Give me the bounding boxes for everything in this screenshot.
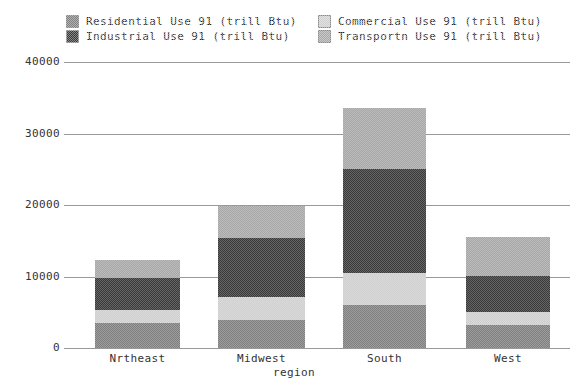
gridline — [64, 62, 570, 63]
bar-segment — [218, 320, 305, 348]
y-axis-tick-label: 10000 — [6, 270, 60, 283]
bar-segment — [95, 310, 180, 323]
x-axis-label: West — [466, 352, 550, 365]
y-axis-tick-label: 0 — [6, 341, 60, 354]
bar-west — [466, 237, 550, 348]
bar-south — [343, 108, 426, 348]
x-axis-label: Midwest — [218, 352, 305, 365]
bar-segment — [95, 278, 180, 310]
bar-segment — [466, 276, 550, 312]
bar-segment — [218, 238, 305, 297]
bar-nrtheast — [95, 260, 180, 348]
bar-segment — [343, 273, 426, 305]
bar-segment — [95, 260, 180, 278]
gridline — [64, 134, 570, 135]
y-axis-tick: 20000 — [0, 198, 60, 212]
bar-segment — [466, 237, 550, 276]
x-axis-label: Nrtheast — [95, 352, 180, 365]
plot-area: 010000200003000040000NrtheastMidwestSout… — [0, 0, 588, 378]
bar-midwest — [218, 206, 305, 348]
y-axis-tick: 40000 — [0, 55, 60, 69]
bar-segment — [218, 297, 305, 320]
x-axis-title: region — [0, 366, 588, 378]
y-axis-tick-label: 40000 — [6, 55, 60, 68]
bar-segment — [343, 169, 426, 273]
bar-segment — [466, 312, 550, 325]
bar-segment — [466, 325, 550, 348]
gridline — [64, 205, 570, 206]
bar-segment — [95, 323, 180, 348]
bar-segment — [343, 305, 426, 348]
y-axis-tick-label: 20000 — [6, 198, 60, 211]
bar-segment — [343, 108, 426, 169]
stacked-bar-chart: Residential Use 91 (trill Btu) Commercia… — [0, 0, 588, 378]
x-axis-label: South — [343, 352, 426, 365]
y-axis-tick: 0 — [0, 341, 60, 355]
y-axis-tick: 30000 — [0, 127, 60, 141]
bar-segment — [218, 206, 305, 237]
y-axis-tick: 10000 — [0, 270, 60, 284]
gridline — [64, 348, 570, 349]
y-axis-tick-label: 30000 — [6, 127, 60, 140]
